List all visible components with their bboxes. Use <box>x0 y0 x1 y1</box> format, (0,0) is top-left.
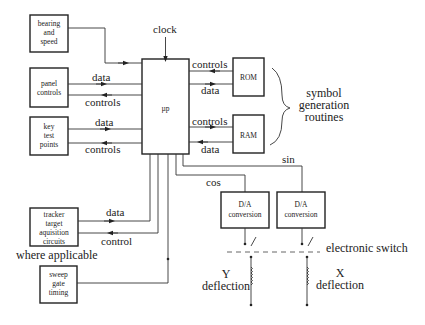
da2-line2: conversion <box>285 210 318 219</box>
block-tracker-line4: circuits <box>43 237 65 246</box>
block-bearing-and-speed: bearing and speed <box>30 15 68 52</box>
clock-label: clock <box>153 23 177 35</box>
block-key-line2: test <box>44 131 55 140</box>
rom-data-label: data <box>201 84 219 96</box>
block-bearing-line2: and <box>44 28 55 37</box>
key-controls-label: controls <box>85 143 120 155</box>
switch-y <box>251 237 256 246</box>
panel-data-label: data <box>92 71 110 83</box>
block-bearing-line3: speed <box>40 37 57 46</box>
block-sweep-line1: sweep <box>49 270 68 279</box>
block-panel-line2: controls <box>37 88 61 97</box>
tracker-data-label: data <box>106 206 124 218</box>
ram-data-label: data <box>201 143 219 155</box>
y-deflection-coil <box>251 267 253 285</box>
switch-x <box>308 237 313 246</box>
block-tracker-target: tracker target aquisition circuits <box>30 208 78 246</box>
block-tracker-line2: target <box>46 219 64 228</box>
da1-line1: D/A <box>239 200 253 209</box>
where-applicable-label: where applicable <box>16 248 98 262</box>
x-deflection-coil <box>307 267 309 285</box>
block-ram: RAM <box>233 115 264 153</box>
block-rom: ROM <box>233 58 264 96</box>
ram-controls-label: controls <box>192 115 227 127</box>
panel-controls-label: controls <box>85 96 120 108</box>
key-data-label: data <box>95 116 113 128</box>
block-panel-line1: panel <box>41 79 57 88</box>
block-microprocessor: µp <box>142 59 189 154</box>
block-key-test-points: key test points <box>30 117 68 155</box>
y-deflection-line2: deflection <box>202 279 250 293</box>
block-da-conversion-x: D/A conversion <box>277 192 325 228</box>
x-deflection-line2: deflection <box>316 278 364 292</box>
block-panel-controls: panel controls <box>30 68 68 107</box>
electronic-switch-label: electronic switch <box>326 241 408 255</box>
bearing-line <box>68 28 142 63</box>
tracker-control-label: control <box>101 235 132 247</box>
brace <box>270 68 290 145</box>
sweep-gate-line <box>77 154 168 283</box>
rom-label: ROM <box>240 73 257 82</box>
rom-controls-label: controls <box>192 58 227 70</box>
da2-line1: D/A <box>295 200 309 209</box>
block-sweep-gate-timing: sweep gate timing <box>40 266 77 303</box>
sin-label: sin <box>282 153 295 165</box>
block-key-line3: points <box>40 140 58 149</box>
microprocessor-label: µp <box>161 104 169 113</box>
symbol-generation-line3: routines <box>305 110 344 124</box>
block-tracker-line1: tracker <box>44 210 65 219</box>
block-sweep-line2: gate <box>52 279 65 288</box>
block-sweep-line3: timing <box>49 288 69 297</box>
block-bearing-line1: bearing <box>38 19 61 28</box>
block-key-line1: key <box>44 122 55 131</box>
block-tracker-line3: aquisition <box>39 228 69 237</box>
block-da-conversion-y: D/A conversion <box>221 192 269 228</box>
block-diagram: bearing and speed panel controls key tes… <box>0 0 425 325</box>
cos-label: cos <box>206 176 221 188</box>
da1-line2: conversion <box>229 210 262 219</box>
ram-label: RAM <box>240 131 257 140</box>
